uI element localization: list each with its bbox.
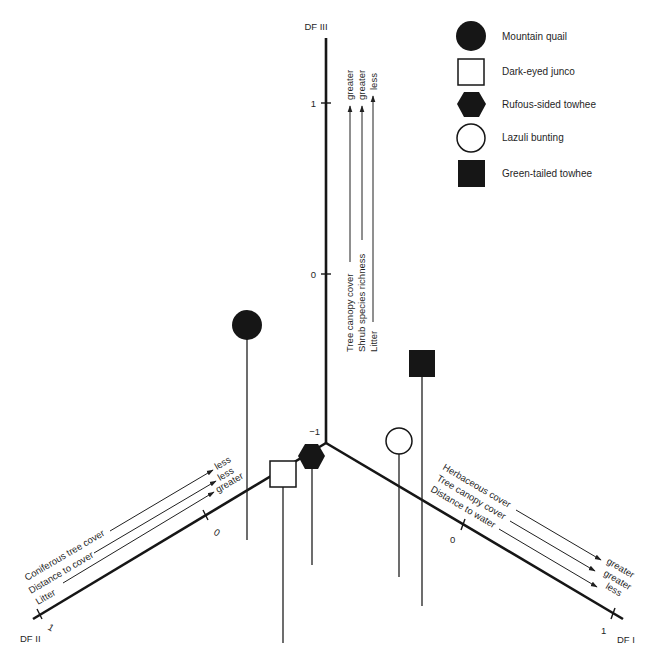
filled-hexagon-icon <box>457 92 486 117</box>
open-circle-marker <box>386 428 412 454</box>
filled-square-icon <box>458 160 485 187</box>
df2-vector-arrow-2 <box>94 481 216 553</box>
legend-item-dark-eyed-junco: Dark-eyed junco <box>458 59 575 85</box>
legend-label: Mountain quail <box>502 31 567 42</box>
df1-tick-label-0: 0 <box>450 534 455 545</box>
point-lazuli-bunting <box>386 428 412 577</box>
filled-circle-marker <box>232 310 262 340</box>
df3-tick-label-1: 1 <box>311 98 316 109</box>
legend-item-lazuli-bunting: Lazuli bunting <box>457 124 564 152</box>
point-rufous-sided-towhee <box>298 444 325 565</box>
legend-item-mountain-quail: Mountain quail <box>456 21 567 51</box>
df3-vector-label-2: Shrub species richness <box>356 254 367 352</box>
legend-item-green-tailed-towhee: Green-tailed towhee <box>458 160 592 187</box>
df1-vector-arrow-1 <box>516 510 601 560</box>
df1-vector-arrow-2 <box>510 521 595 571</box>
df1-axis-label: DF I <box>617 634 635 645</box>
open-square-marker <box>270 461 296 487</box>
df1-tick-label-1: 1 <box>601 625 606 636</box>
df1-vector-arrow-3 <box>499 529 597 587</box>
filled-circle-icon <box>456 21 486 51</box>
df3-vectors: Tree canopy cover Shrub species richness… <box>344 70 379 352</box>
df3-vector-label-3: Litter <box>368 331 379 352</box>
df2-tick-label-0: 0 <box>212 526 222 538</box>
legend-label: Green-tailed towhee <box>502 168 592 179</box>
df3-axis: DF III 1 0 −1 <box>304 21 331 443</box>
legend-label: Lazuli bunting <box>502 132 564 143</box>
point-dark-eyed-junco <box>270 461 296 643</box>
df3-vector-end-1: greater <box>344 70 355 100</box>
df2-axis-label: DF II <box>20 633 41 644</box>
filled-square-marker <box>409 350 435 377</box>
legend-label: Rufous-sided towhee <box>502 99 596 110</box>
df1-vectors: Herbaceous cover Tree canopy cover Dista… <box>429 461 637 598</box>
discriminant-function-plot: DF III 1 0 −1 0 1 DF II 0 1 DF I Tree ca… <box>0 0 649 660</box>
df3-vector-end-3: less <box>368 73 379 90</box>
filled-hexagon-marker <box>298 444 325 469</box>
point-mountain-quail <box>232 310 262 540</box>
legend: Mountain quail Dark-eyed junco Rufous-si… <box>456 21 596 187</box>
df1-axis: 0 1 DF I <box>326 443 635 645</box>
legend-item-rufous-sided-towhee: Rufous-sided towhee <box>457 92 596 117</box>
open-square-icon <box>458 59 484 85</box>
legend-label: Dark-eyed junco <box>502 66 575 77</box>
df3-tick-label-neg1: −1 <box>309 426 320 437</box>
df2-vectors: Coniferous tree cover Distance to cover … <box>22 454 245 607</box>
open-circle-icon <box>457 124 485 152</box>
df2-tick-label-1: 1 <box>46 621 56 633</box>
point-green-tailed-towhee <box>409 350 435 606</box>
df3-vector-end-2: greater <box>356 70 367 100</box>
df3-axis-label: DF III <box>304 21 327 32</box>
df3-tick-label-0: 0 <box>311 269 316 280</box>
df2-vector-arrow-1 <box>110 470 213 531</box>
df3-vector-label-1: Tree canopy cover <box>344 274 355 352</box>
